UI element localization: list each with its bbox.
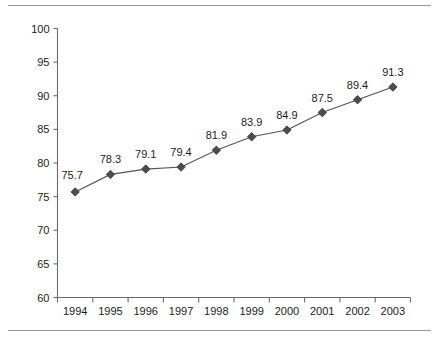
y-tick-label: 70 xyxy=(37,224,49,236)
data-point-marker xyxy=(247,133,255,141)
x-axis-tick-labels: 1994199519961997199819992000200120022003 xyxy=(63,305,405,317)
data-point-marker xyxy=(106,170,114,178)
data-point-marker xyxy=(177,163,185,171)
y-tick-label: 95 xyxy=(37,56,49,68)
data-point-labels: 75.778.379.179.481.983.984.987.589.491.3 xyxy=(61,66,403,181)
data-series-line xyxy=(75,87,393,192)
data-point-marker xyxy=(318,108,326,116)
x-tick-label: 2002 xyxy=(345,305,369,317)
x-tick-label: 2001 xyxy=(310,305,334,317)
y-tick-label: 85 xyxy=(37,123,49,135)
y-tick-label: 65 xyxy=(37,258,49,270)
data-point-marker xyxy=(71,188,79,196)
x-tick-label: 2003 xyxy=(381,305,405,317)
y-tick-label: 100 xyxy=(31,23,49,35)
y-tick-label: 75 xyxy=(37,191,49,203)
x-tick-label: 1999 xyxy=(239,305,263,317)
data-point-label: 79.4 xyxy=(170,146,191,158)
x-tick-label: 2000 xyxy=(275,305,299,317)
data-point-label: 87.5 xyxy=(312,92,333,104)
data-point-label: 75.7 xyxy=(61,169,82,181)
data-point-marker xyxy=(212,146,220,154)
line-chart-plot: 6065707580859095100 19941995199619971998… xyxy=(0,0,439,341)
data-point-label: 78.3 xyxy=(100,153,121,165)
x-axis-tick-marks xyxy=(58,298,411,303)
x-tick-label: 1996 xyxy=(134,305,158,317)
y-axis-tick-labels: 6065707580859095100 xyxy=(31,23,49,304)
data-point-marker xyxy=(142,165,150,173)
x-tick-label: 1998 xyxy=(204,305,228,317)
x-tick-label: 1995 xyxy=(98,305,122,317)
data-point-label: 83.9 xyxy=(241,116,262,128)
data-point-label: 79.1 xyxy=(135,148,156,160)
data-point-marker xyxy=(283,126,291,134)
data-point-label: 84.9 xyxy=(276,109,297,121)
data-point-label: 81.9 xyxy=(206,129,227,141)
x-tick-label: 1994 xyxy=(63,305,87,317)
y-tick-label: 60 xyxy=(37,292,49,304)
data-point-marker xyxy=(389,83,397,91)
y-axis-tick-marks xyxy=(54,29,58,298)
data-point-label: 91.3 xyxy=(382,66,403,78)
data-point-marker xyxy=(353,96,361,104)
y-tick-label: 80 xyxy=(37,157,49,169)
x-tick-label: 1997 xyxy=(169,305,193,317)
chart-figure: 6065707580859095100 19941995199619971998… xyxy=(0,0,439,341)
data-point-label: 89.4 xyxy=(347,79,368,91)
y-tick-label: 90 xyxy=(37,90,49,102)
data-point-markers xyxy=(71,83,397,196)
